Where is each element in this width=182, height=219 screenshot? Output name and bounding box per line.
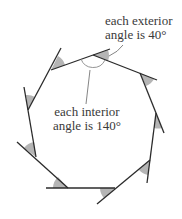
interior-angle-label: each interior angle is 140° (52, 105, 122, 133)
interior-label-line1: each interior (52, 105, 122, 119)
exterior-angle-label: each exterior angle is 40° (105, 14, 172, 42)
exterior-label-line2: angle is 40° (105, 28, 172, 42)
exterior-label-line1: each exterior (105, 14, 172, 28)
interior-leader-line (86, 70, 90, 104)
interior-label-line2: angle is 140° (52, 119, 122, 133)
interior-angle-arc (81, 59, 105, 68)
exterior-leader-line (109, 45, 123, 56)
